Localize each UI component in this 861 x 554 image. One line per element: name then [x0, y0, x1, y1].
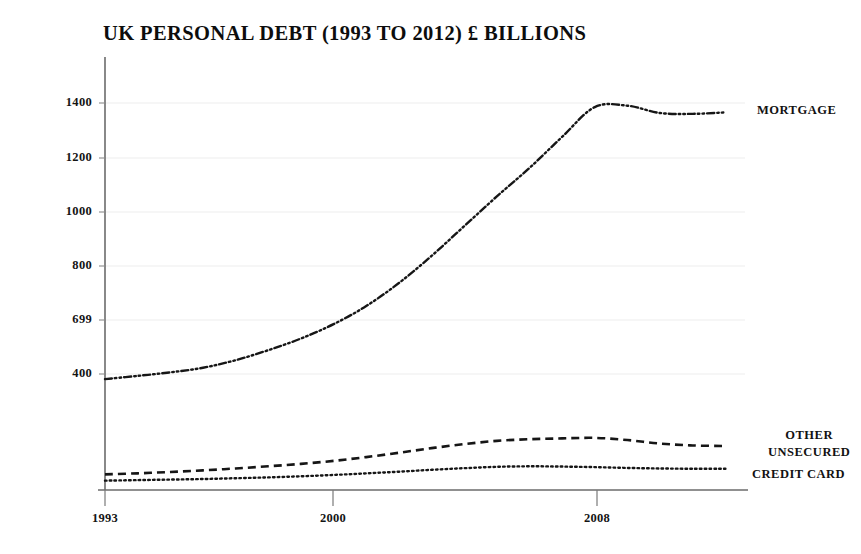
y-tick-label-1400: 1400	[30, 95, 92, 110]
x-tick-label-1993: 1993	[75, 511, 135, 526]
y-tick-label-1000: 1000	[30, 204, 92, 219]
series-label-credit-card: CREDIT CARD	[752, 467, 845, 482]
chart-plot-area	[0, 0, 861, 554]
y-tick-label-1200: 1200	[30, 150, 92, 165]
y-tick-label-600: 699	[30, 312, 92, 327]
series-label-mortgage: MORTGAGE	[757, 103, 836, 118]
y-tick-marks	[99, 103, 105, 374]
gridlines	[105, 103, 745, 374]
chart-container: UK PERSONAL DEBT (1993 TO 2012) £ BILLIO…	[0, 0, 861, 554]
series-label-other-unsecured-line1: OTHER	[768, 427, 850, 444]
series-line-mortgage	[105, 104, 725, 379]
series-line-credit-card	[105, 466, 725, 480]
y-tick-label-400: 400	[30, 366, 92, 381]
series-label-other-unsecured-line2: UNSECURED	[768, 444, 850, 461]
series-label-other-unsecured: OTHER UNSECURED	[768, 427, 850, 461]
y-tick-label-800: 800	[30, 258, 92, 273]
x-tick-marks	[105, 490, 597, 506]
x-tick-label-2008: 2008	[567, 511, 627, 526]
x-tick-label-2000: 2000	[303, 511, 363, 526]
